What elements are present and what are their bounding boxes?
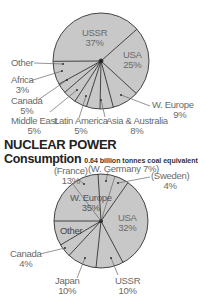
label-value: 10% [55, 286, 79, 296]
bottom-label-wgermany: (W. Germany 7%) [88, 164, 159, 174]
label-value: 10% [115, 286, 140, 296]
label-value: 4% [10, 259, 41, 269]
top-label-latam: Latin America 5% [54, 116, 108, 136]
bottom-label-france: (France) 13% [54, 166, 88, 186]
label-text: Other [11, 58, 33, 68]
top-label-africa: Africa 3% [11, 75, 33, 95]
label-value: 37% [82, 38, 107, 48]
subtitle-text: Consumption [4, 152, 81, 166]
section-title: NUCLEAR POWER [4, 137, 116, 152]
top-label-ussr: USSR 37% [82, 28, 107, 48]
bottom-label-japan: Japan 10% [55, 276, 79, 296]
label-text: (W. Germany 7%) [88, 164, 159, 174]
bottom-label-sweden: (Sweden) 4% [151, 171, 189, 191]
label-value: 4% [151, 181, 189, 191]
label-text: Other [60, 226, 82, 236]
bottom-label-ussr: USSR 10% [115, 276, 140, 296]
label-value: 32% [118, 223, 137, 233]
label-value: 35% [70, 203, 112, 213]
label-value: 5% [11, 106, 42, 116]
label-value: 5% [11, 126, 57, 136]
top-label-canada: Canada 5% [11, 96, 42, 116]
bottom-label-other: Other [60, 226, 82, 236]
label-value: 25% [123, 60, 142, 70]
label-value: 13% [54, 176, 88, 186]
label-value: 8% [106, 126, 168, 136]
top-label-other: Other [11, 58, 33, 68]
label-value: 5% [54, 126, 108, 136]
top-label-mideast: Middle East 5% [11, 116, 57, 136]
bottom-label-usa: USA 32% [118, 213, 137, 233]
top-label-asia: Asia & Australia 8% [106, 116, 168, 136]
label-value: 3% [11, 85, 33, 95]
top-label-usa: USA 25% [123, 50, 142, 70]
bottom-label-canada: Canada 4% [10, 249, 41, 269]
bottom-label-weurope: W. Europe 35% [70, 193, 112, 213]
